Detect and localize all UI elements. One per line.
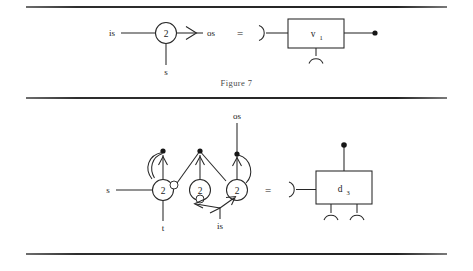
figure8-bottom-left-label: t	[162, 223, 165, 233]
figure8-equals-sign: =	[265, 184, 271, 196]
figure-8-diagram: os 2 s t	[0, 99, 473, 233]
figure8-input-label: s	[106, 185, 110, 195]
figure7-equals-sign: =	[237, 27, 243, 39]
figure8-box-subscript: 3	[346, 189, 349, 196]
figure8-mid-to-right-wire	[202, 153, 227, 181]
figure7-box-subscript: 1	[319, 34, 322, 41]
figure8-box-top-dot	[341, 142, 347, 148]
figure8-right-node-label: 2	[235, 186, 240, 196]
figure-7-block: is 2 os s = v 1	[0, 8, 473, 96]
bottom-rule	[26, 253, 447, 255]
figure8-box-label: d	[338, 184, 343, 194]
figure8-mid-node-label: 2	[198, 186, 203, 196]
figure8-left-node-token	[170, 181, 178, 189]
figure-7-diagram: is 2 os s = v 1	[0, 8, 473, 80]
figure7-bottom-label: s	[164, 67, 168, 77]
figure8-top-label: os	[233, 111, 242, 121]
figure8-left-selfloop-inner	[152, 154, 163, 179]
figure8-input-port-arc	[289, 182, 294, 197]
figure8-box-bottom-arc-right	[350, 215, 364, 220]
figure8-left-node-label: 2	[161, 186, 166, 196]
figure8-right-selfloop	[239, 155, 251, 183]
figure7-box	[288, 19, 344, 48]
figure-7-caption: Figure 7	[0, 78, 473, 88]
figure8-os-junction-dot	[234, 151, 239, 156]
figure8-bottom-mid-label: is	[217, 221, 224, 231]
figure7-terminal-dot	[372, 30, 377, 35]
figure-8-block: os 2 s t	[0, 99, 473, 251]
figure7-node-label: 2	[164, 29, 169, 39]
figure7-input-label: is	[109, 28, 116, 38]
figure7-input-port-arc	[259, 26, 264, 41]
paper-page: is 2 os s = v 1	[0, 0, 473, 271]
figure8-left-selfloop-outer	[148, 153, 162, 180]
figure8-left-to-mid-wire	[177, 153, 199, 183]
figure7-box-bottom-arc	[309, 59, 323, 64]
figure7-box-label: v	[311, 29, 316, 39]
figure8-box	[316, 171, 372, 204]
figure8-box-bottom-arc-left	[324, 215, 338, 220]
figure7-output-label: os	[207, 28, 216, 38]
figure8-is-extra-branch	[210, 208, 220, 213]
